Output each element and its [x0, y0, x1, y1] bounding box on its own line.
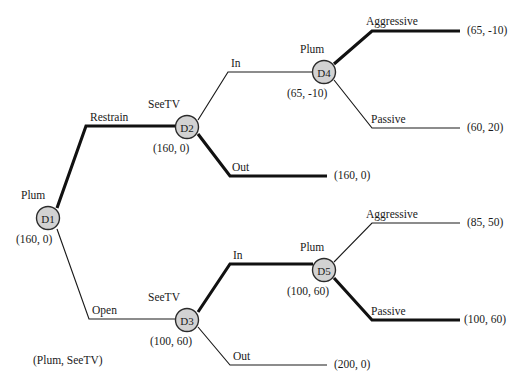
node-d1[interactable]: D1	[37, 207, 60, 230]
terminal-payoff-out-top: (160, 0)	[334, 170, 370, 182]
node-d4-payoff: (65, -10)	[287, 88, 327, 100]
terminal-payoff-passive-top: (60, 20)	[467, 122, 503, 134]
node-d3-label: D3	[180, 315, 194, 327]
terminal-payoff-aggressive-bottom: (85, 50)	[467, 217, 503, 229]
node-d4[interactable]: D4	[313, 61, 336, 84]
node-d3[interactable]: D3	[176, 309, 199, 332]
node-d5-label: D5	[317, 265, 331, 277]
node-d1-label: D1	[41, 213, 54, 225]
edge-d4-aggressive	[334, 31, 460, 64]
edge-label-d4-aggressive: Aggressive	[366, 16, 418, 28]
edge-label-restrain: Restrain	[90, 112, 128, 124]
node-d2[interactable]: D2	[176, 116, 199, 139]
edge-label-d5-aggressive: Aggressive	[366, 209, 418, 221]
edge-label-d2-in: In	[231, 58, 241, 70]
node-d1-payoff: (160, 0)	[16, 234, 52, 246]
edge-label-d5-passive: Passive	[371, 306, 406, 318]
node-d2-player: SeeTV	[148, 99, 180, 111]
equilibrium-annotation: (Plum, SeeTV)	[33, 355, 103, 367]
edge-label-d3-in: In	[233, 250, 243, 262]
node-d5-payoff: (100, 60)	[287, 286, 329, 298]
node-d4-player: Plum	[300, 44, 324, 56]
terminal-payoff-aggressive-top: (65, -10)	[467, 25, 507, 37]
terminal-payoff-out-bottom: (200, 0)	[334, 359, 370, 371]
node-d3-player: SeeTV	[148, 292, 180, 304]
node-d1-player: Plum	[21, 190, 45, 202]
node-d2-payoff: (160, 0)	[153, 143, 189, 155]
node-d2-label: D2	[180, 122, 193, 134]
node-d3-payoff: (100, 60)	[150, 336, 192, 348]
edge-d5-aggressive	[334, 223, 460, 262]
terminal-payoff-passive-bottom: (100, 60)	[464, 314, 506, 326]
edge-d2-out	[198, 134, 327, 176]
edge-label-open: Open	[92, 305, 117, 317]
node-d5[interactable]: D5	[313, 259, 336, 282]
node-d4-label: D4	[317, 67, 331, 79]
edge-label-d2-out: Out	[232, 162, 249, 174]
edge-label-d3-out: Out	[233, 351, 250, 363]
node-d5-player: Plum	[300, 242, 324, 254]
edge-label-d4-passive: Passive	[371, 114, 406, 126]
game-tree-diagram: D1 D2 D3 D4 D5 Plum SeeTV SeeTV Plum Plu…	[0, 0, 529, 387]
tree-edges-and-nodes: D1 D2 D3 D4 D5	[0, 0, 529, 387]
edge-d1-restrain	[57, 126, 176, 208]
edge-d3-out	[198, 327, 327, 365]
